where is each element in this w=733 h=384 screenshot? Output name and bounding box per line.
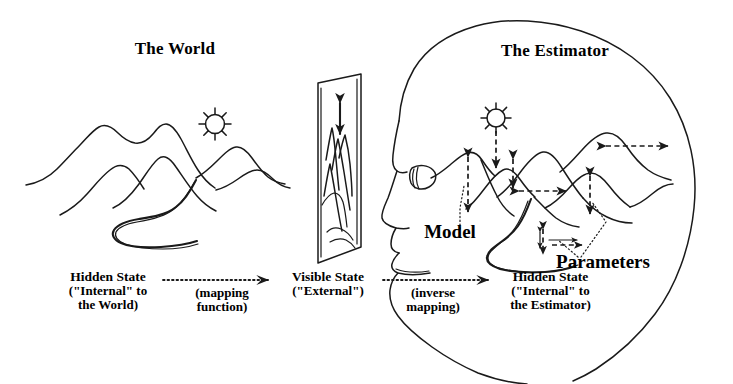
mountain-range-icon	[26, 124, 290, 215]
caption-line: ("Internal" to	[483, 284, 618, 298]
caption-hidden-state-world: Hidden State ("Internal" to the World)	[48, 270, 168, 312]
caption-line: (mapping	[172, 286, 272, 300]
caption-line: ("Internal" to	[48, 284, 168, 298]
caption-line: mapping)	[385, 300, 481, 314]
caption-line: function)	[172, 300, 272, 314]
world-estimator-diagram: The World The Estimator Model Parameters…	[0, 0, 733, 384]
page-title-world: The World	[75, 40, 275, 58]
caption-visible-state: Visible State ("External")	[272, 270, 384, 298]
estimator-scene	[431, 103, 673, 272]
caption-line: (inverse	[385, 286, 481, 300]
caption-line: the World)	[48, 298, 168, 312]
river-icon	[113, 180, 198, 249]
caption-line: Hidden State	[483, 270, 618, 284]
page-title-estimator: The Estimator	[455, 42, 655, 60]
caption-line: ("External")	[272, 284, 384, 298]
sun-icon	[481, 103, 511, 133]
mountain-range-icon	[431, 133, 673, 227]
projected-terrain	[322, 128, 355, 248]
caption-hidden-state-estimator: Hidden State ("Internal" to the Estimato…	[483, 270, 618, 312]
caption-mapping-function: (mapping function)	[172, 286, 272, 314]
model-label: Model	[405, 222, 495, 242]
caption-line: Visible State	[272, 270, 384, 284]
caption-inverse-mapping: (inverse mapping)	[385, 286, 481, 314]
world-scene	[26, 108, 290, 249]
double-arrow-icon	[468, 131, 668, 254]
sun-icon	[199, 108, 231, 140]
caption-line: the Estimator)	[483, 298, 618, 312]
projection-plane-icon	[318, 74, 361, 263]
caption-line: Hidden State	[48, 270, 168, 284]
